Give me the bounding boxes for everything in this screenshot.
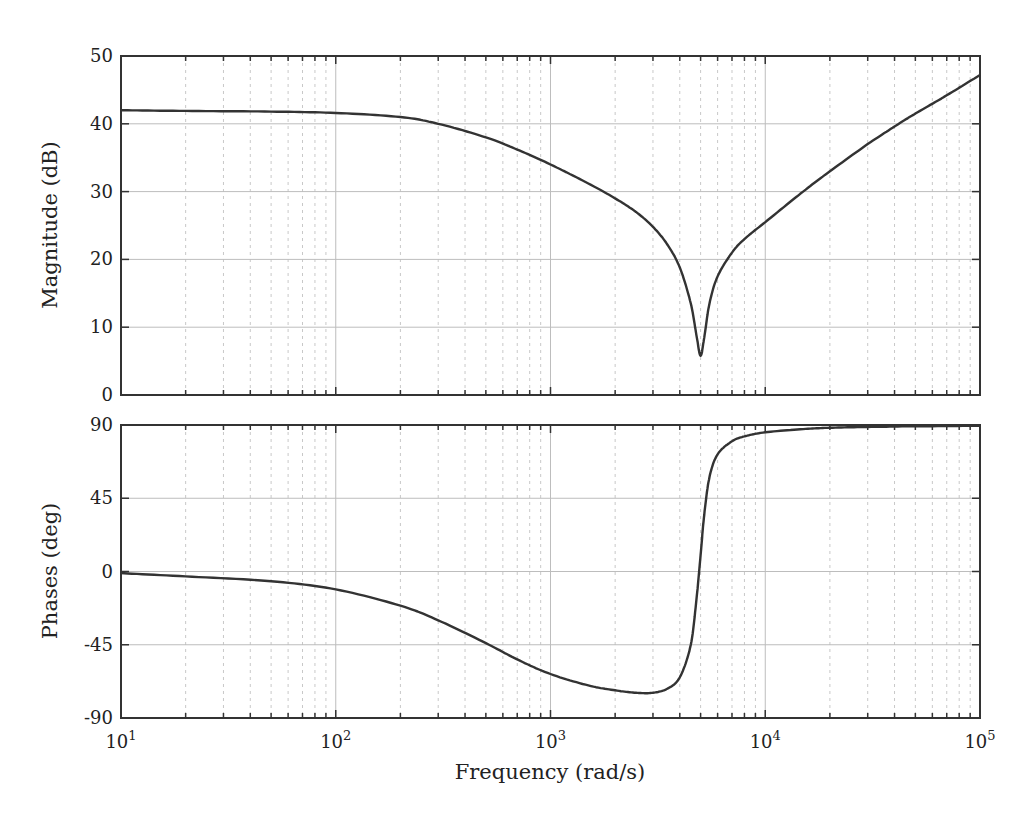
bode-plot-svg: 01020304050 -90-4504590 101102103104105 …: [0, 0, 1035, 825]
magnitude-y-tick-label: 50: [90, 45, 113, 66]
phase-y-tick-label: 90: [90, 414, 113, 435]
magnitude-panel: 01020304050: [90, 45, 980, 405]
phase-y-tick-label: -90: [84, 707, 113, 728]
x-tick-label: 104: [750, 728, 781, 752]
magnitude-y-axis-label: Magnitude (dB): [38, 141, 62, 308]
phase-panel: -90-4504590: [84, 414, 980, 728]
x-tick-label: 105: [964, 728, 995, 752]
magnitude-y-tick-label: 20: [90, 248, 113, 269]
x-axis-label: Frequency (rad/s): [455, 760, 646, 784]
magnitude-y-tick-label: 0: [102, 384, 113, 405]
phase-y-tick-label: -45: [84, 634, 113, 655]
x-tick-label: 101: [105, 728, 136, 752]
phase-y-tick-label: 0: [102, 561, 113, 582]
phase-y-axis-label: Phases (deg): [38, 503, 62, 640]
magnitude-y-tick-label: 10: [90, 316, 113, 337]
phase-y-tick-label: 45: [90, 487, 113, 508]
magnitude-y-tick-label: 30: [90, 181, 113, 202]
bode-plot: 01020304050 -90-4504590 101102103104105 …: [0, 0, 1035, 825]
x-tick-label: 103: [535, 728, 566, 752]
magnitude-y-tick-label: 40: [90, 113, 113, 134]
x-tick-label: 102: [320, 728, 351, 752]
x-axis: 101102103104105: [105, 728, 995, 752]
